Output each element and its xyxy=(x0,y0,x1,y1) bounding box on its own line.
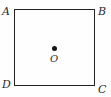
vertex-label-d: D xyxy=(2,79,11,90)
vertex-label-b: B xyxy=(98,6,106,17)
vertex-label-a: A xyxy=(2,6,10,17)
center-point-dot-icon xyxy=(52,46,57,51)
vertex-label-c: C xyxy=(98,84,106,95)
geometry-figure: A B C D O xyxy=(0,0,111,97)
center-point-label-o: O xyxy=(50,54,58,64)
